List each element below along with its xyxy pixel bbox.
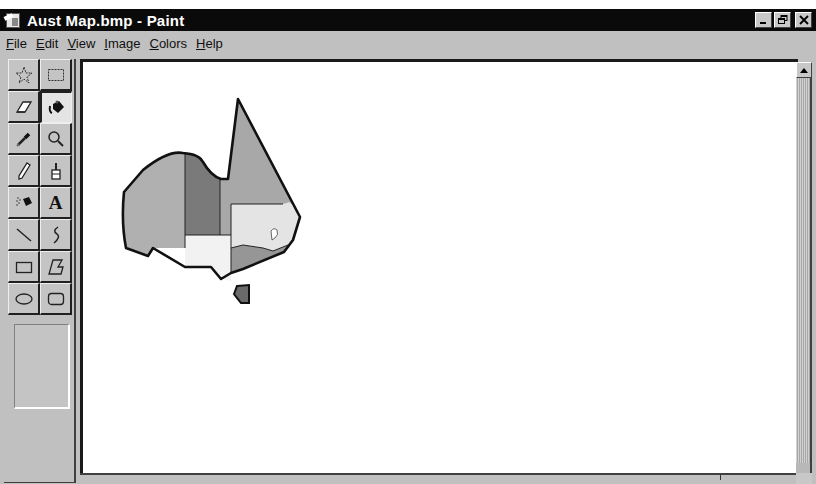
- menu-help[interactable]: Help: [193, 36, 229, 51]
- drawing-canvas[interactable]: [83, 62, 798, 473]
- menu-colors-label: olors: [159, 36, 187, 51]
- scroll-up-arrow-icon: [800, 68, 808, 73]
- eraser-icon: [14, 97, 34, 117]
- menu-edit-accel: E: [36, 36, 45, 51]
- menu-colors-accel: C: [149, 36, 158, 51]
- menu-help-label: elp: [205, 36, 222, 51]
- window-controls: [755, 12, 812, 28]
- tool-rectangle[interactable]: [8, 251, 40, 283]
- close-button[interactable]: [795, 12, 812, 28]
- restore-button[interactable]: [774, 12, 791, 28]
- tool-options-box[interactable]: [14, 324, 70, 409]
- minimize-icon: [759, 15, 769, 25]
- paint-app-icon[interactable]: [4, 12, 22, 28]
- minimize-button[interactable]: [755, 12, 772, 28]
- tool-eraser[interactable]: [8, 91, 40, 123]
- menu-file-accel: F: [6, 36, 14, 51]
- tool-brush[interactable]: [40, 155, 72, 187]
- scroll-corner: [796, 473, 812, 484]
- rectangle-icon: [14, 257, 34, 277]
- restore-icon: [778, 15, 788, 25]
- scroll-track[interactable]: [796, 78, 810, 463]
- pencil-icon: [14, 161, 34, 181]
- tool-free-form-select[interactable]: [8, 59, 40, 91]
- tool-rounded-rectangle[interactable]: [40, 283, 72, 315]
- menu-edit[interactable]: Edit: [33, 36, 64, 51]
- polygon-icon: [46, 257, 66, 277]
- tool-select[interactable]: [40, 59, 72, 91]
- ellipse-icon: [14, 289, 34, 309]
- menu-image-label: mage: [108, 36, 141, 51]
- tool-pencil[interactable]: [8, 155, 40, 187]
- tool-grid: A: [8, 59, 72, 315]
- menu-file-label: ile: [14, 36, 27, 51]
- brush-icon: [46, 161, 66, 181]
- australia-map-drawing: [83, 62, 798, 473]
- menu-bar: File Edit View Image Colors Help: [0, 33, 816, 53]
- menu-view-label: iew: [76, 36, 96, 51]
- eyedropper-icon: [14, 129, 34, 149]
- tool-text[interactable]: A: [40, 187, 72, 219]
- scroll-up-button[interactable]: [796, 62, 812, 78]
- rounded-rectangle-icon: [46, 289, 66, 309]
- menu-colors[interactable]: Colors: [146, 36, 193, 51]
- magnifier-icon: [46, 129, 66, 149]
- paint-bucket-icon: [47, 98, 67, 118]
- canvas-area: [80, 59, 798, 473]
- close-icon: [799, 15, 809, 25]
- menu-image[interactable]: Image: [101, 36, 146, 51]
- tool-airbrush[interactable]: [8, 187, 40, 219]
- tool-pick-color[interactable]: [8, 123, 40, 155]
- window-title: Aust Map.bmp - Paint: [27, 12, 184, 29]
- tool-fill-with-color[interactable]: [40, 91, 72, 123]
- menu-view[interactable]: View: [64, 36, 101, 51]
- vertical-scrollbar[interactable]: [796, 62, 812, 473]
- text-icon: A: [49, 192, 63, 214]
- tool-magnifier[interactable]: [40, 123, 72, 155]
- tool-ellipse[interactable]: [8, 283, 40, 315]
- menu-edit-label: dit: [45, 36, 59, 51]
- menu-file[interactable]: File: [3, 36, 33, 51]
- bottom-tick-mark: [720, 475, 721, 480]
- tool-polygon[interactable]: [40, 251, 72, 283]
- toolbox: A: [4, 59, 76, 483]
- paint-window: Aust Map.bmp - Paint File Edit View Imag…: [0, 9, 816, 484]
- tool-line[interactable]: [8, 219, 40, 251]
- rect-select-icon: [46, 65, 66, 85]
- airbrush-icon: [14, 193, 34, 213]
- tool-curve[interactable]: [40, 219, 72, 251]
- line-icon: [14, 225, 34, 245]
- curve-icon: [46, 225, 66, 245]
- menu-view-accel: V: [67, 36, 75, 51]
- title-bar[interactable]: Aust Map.bmp - Paint: [0, 9, 816, 31]
- star-select-icon: [14, 65, 34, 85]
- canvas-bottom-border: [80, 473, 800, 475]
